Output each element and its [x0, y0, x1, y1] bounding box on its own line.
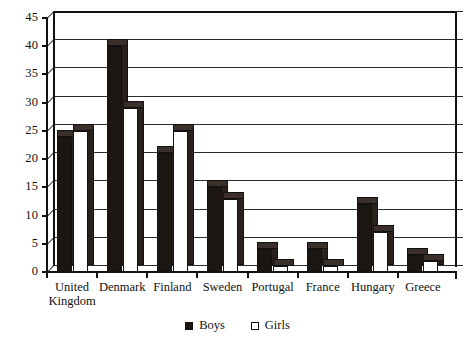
bar-girls-hungary [373, 232, 388, 272]
bar-front-face [257, 249, 272, 272]
plot-right-edge [455, 11, 457, 267]
category-label: Portugal [248, 280, 298, 294]
y-axis-tick-label: 5 [2, 236, 38, 251]
category-tick-mark [96, 272, 98, 278]
legend-label: Boys [199, 318, 225, 333]
y-axis-tick-label: 40 [2, 38, 38, 53]
category-axis-baseline [42, 271, 457, 273]
y-axis-tick-label: 45 [2, 10, 38, 25]
bar-top-face [423, 254, 444, 261]
bar-front-face [157, 153, 172, 272]
bar-top-face [273, 259, 294, 266]
bar-top-face [173, 124, 194, 131]
category-tick-mark [455, 272, 457, 278]
bar-top-face [207, 180, 228, 187]
bar-boys-sweden [207, 187, 222, 272]
bar-front-face [373, 232, 388, 272]
bar-top-face [307, 242, 328, 249]
y-axis-tick-label: 20 [2, 151, 38, 166]
value-axis-front [46, 18, 48, 273]
bar-top-face [223, 192, 244, 199]
category-tick-mark [46, 272, 48, 278]
y-axis-tick-label: 30 [2, 95, 38, 110]
bar-front-face [207, 187, 222, 272]
bar-front-face [173, 131, 188, 272]
y-axis-tick-label: 0 [2, 264, 38, 279]
legend-entry-girls[interactable]: Girls [251, 318, 290, 333]
bar-front-face [223, 199, 238, 272]
bar-girls-denmark [123, 108, 138, 272]
bar-top-face [107, 39, 128, 46]
bar-boys-france [307, 249, 322, 272]
category-tick-mark [196, 272, 198, 278]
category-label: Finland [147, 280, 197, 294]
value-axis-back [53, 11, 55, 266]
bar-top-face [357, 197, 378, 204]
category-label: United Kingdom [47, 280, 97, 308]
bar-front-face [357, 204, 372, 272]
bar-side-face [137, 101, 144, 265]
legend-entry-boys[interactable]: Boys [185, 318, 225, 333]
bar-boys-united-kingdom [57, 137, 72, 272]
category-label: France [298, 280, 348, 294]
category-label: Denmark [97, 280, 147, 294]
bar-girls-sweden [223, 199, 238, 272]
category-label: Sweden [197, 280, 247, 294]
category-label: Greece [398, 280, 448, 294]
bar-front-face [57, 137, 72, 272]
category-label: Hungary [348, 280, 398, 294]
bar-girls-united-kingdom [73, 131, 88, 272]
bar-boys-denmark [107, 46, 122, 272]
y-axis-tick-label: 35 [2, 66, 38, 81]
bar-chart: 051015202530354045 United KingdomDenmark… [0, 0, 475, 345]
y-axis-tick-label: 25 [2, 123, 38, 138]
bar-top-face [123, 101, 144, 108]
bar-boys-greece [407, 255, 422, 272]
bar-top-face [373, 225, 394, 232]
bar-front-face [307, 249, 322, 272]
filled-square-icon [185, 322, 193, 330]
category-tick-mark [146, 272, 148, 278]
bar-front-face [107, 46, 122, 272]
bar-front-face [407, 255, 422, 272]
bar-boys-finland [157, 153, 172, 272]
bar-girls-finland [173, 131, 188, 272]
hollow-square-icon [251, 322, 259, 330]
bar-side-face [87, 124, 94, 265]
plot-top-edge [54, 11, 456, 13]
category-tick-mark [247, 272, 249, 278]
chart-legend: BoysGirls [0, 318, 475, 333]
y-axis-tick-label: 15 [2, 179, 38, 194]
bar-top-face [257, 242, 278, 249]
y-axis-tick-label: 10 [2, 208, 38, 223]
legend-label: Girls [265, 318, 290, 333]
bar-boys-hungary [357, 204, 372, 272]
category-tick-mark [397, 272, 399, 278]
bar-front-face [123, 108, 138, 272]
bar-boys-portugal [257, 249, 272, 272]
bar-front-face [73, 131, 88, 272]
category-tick-mark [297, 272, 299, 278]
bar-top-face [323, 259, 344, 266]
category-tick-mark [347, 272, 349, 278]
bar-side-face [237, 192, 244, 265]
bar-top-face [73, 124, 94, 131]
bar-side-face [187, 124, 194, 265]
